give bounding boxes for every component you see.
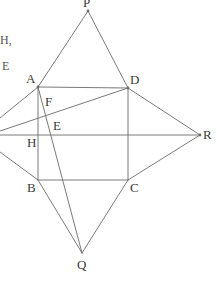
left-apex-to-B	[0, 152, 38, 180]
apex-R-to-C	[128, 135, 200, 180]
vertex-label-b: B	[27, 181, 36, 194]
cevian-left-edge-to-D	[0, 88, 128, 131]
square-side-AD	[38, 87, 128, 88]
vertex-label-h: H	[27, 136, 36, 149]
vertex-label-c: C	[130, 181, 139, 194]
apex-P-to-A	[38, 11, 88, 87]
apex-R-to-D	[128, 88, 200, 135]
vertex-dot-d	[127, 87, 130, 90]
vertex-dot-p	[87, 10, 90, 13]
vertex-label-a: A	[26, 72, 35, 85]
vertex-label-q: Q	[77, 258, 86, 271]
margin-text-line2: E	[2, 58, 9, 74]
vertex-dot-a	[37, 86, 40, 89]
left-apex-to-A	[0, 87, 38, 118]
vertex-label-p: P	[83, 0, 90, 9]
segment-layer	[0, 11, 200, 253]
vertex-dot-r	[199, 134, 202, 137]
vertex-dot-layer	[37, 10, 202, 137]
apex-Q-to-B	[38, 180, 82, 253]
vertex-label-e: E	[53, 119, 61, 132]
apex-Q-to-C	[82, 180, 128, 253]
cevian-A-to-Q	[38, 87, 82, 253]
vertex-label-f: F	[45, 95, 52, 108]
geometry-figure: PADFEHRBCQ H, E	[0, 0, 217, 287]
vertex-label-r: R	[203, 128, 212, 141]
vertex-label-d: D	[130, 73, 139, 86]
apex-P-to-D	[88, 11, 128, 88]
margin-text-line1: H,	[0, 32, 12, 48]
